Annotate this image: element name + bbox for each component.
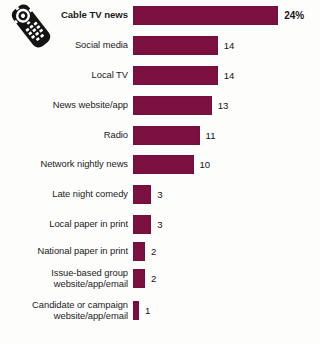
bar-value-label: 10 (194, 159, 211, 170)
bar-value-label: 14 (218, 40, 235, 51)
bar-category-label: Network nightly news (0, 158, 133, 169)
bar (133, 242, 145, 261)
bar-category-label: Social media (0, 39, 133, 50)
bar-category-label: Local TV (0, 69, 133, 80)
bar-value-label: 13 (212, 100, 229, 111)
bar-value-label: 1 (139, 305, 150, 316)
bar-row: Cable TV news24% (0, 5, 320, 25)
bar-and-value: 14 (133, 36, 320, 55)
bar-category-label: Late night comedy (0, 188, 133, 199)
bar-chart: Cable TV news24%Social media14Local TV14… (0, 0, 320, 344)
bar (133, 36, 218, 55)
bar-row: Local paper in print3 (0, 214, 320, 234)
bar-value-label: 2 (145, 246, 156, 257)
bar-category-label: Cable TV news (0, 9, 133, 20)
bar (133, 185, 151, 204)
bar-category-label: Radio (0, 129, 133, 140)
bar-value-label: 3 (151, 219, 162, 230)
bar-and-value: 2 (133, 242, 320, 261)
bar-and-value: 13 (133, 96, 320, 115)
bar-category-label: Candidate or campaign website/app/email (0, 299, 133, 322)
bar-row: Local TV14 (0, 65, 320, 85)
bar-row: National paper in print2 (0, 241, 320, 261)
bar (133, 269, 145, 288)
bar-row: Radio11 (0, 125, 320, 145)
bar-value-label: 11 (200, 130, 216, 141)
bar-and-value: 24% (133, 6, 320, 25)
bar-category-label: News website/app (0, 99, 133, 110)
bar-category-label: Local paper in print (0, 218, 133, 229)
bar-value-label: 14 (218, 70, 235, 81)
bar (133, 155, 194, 174)
bar (133, 215, 151, 234)
bar-and-value: 3 (133, 185, 320, 204)
bar-row: Late night comedy3 (0, 184, 320, 204)
bar (133, 126, 200, 145)
bar-and-value: 10 (133, 155, 320, 174)
bar-row: Candidate or campaign website/app/email1 (0, 300, 320, 320)
bar-value-label: 2 (145, 273, 156, 284)
bar-and-value: 14 (133, 66, 320, 85)
bar-and-value: 3 (133, 215, 320, 234)
bar-row: Network nightly news10 (0, 154, 320, 174)
bar (133, 96, 212, 115)
bar-category-label: National paper in print (0, 245, 133, 256)
bar (133, 6, 278, 25)
bar-row: News website/app13 (0, 95, 320, 115)
bar (133, 66, 218, 85)
bar-and-value: 11 (133, 126, 320, 145)
bar-and-value: 2 (133, 269, 320, 288)
bar-and-value: 1 (133, 301, 320, 320)
bar-row: Social media14 (0, 35, 320, 55)
bar-category-label: Issue-based group website/app/email (0, 267, 133, 290)
bar-value-label: 3 (151, 189, 162, 200)
bar-value-label: 24% (278, 10, 304, 21)
bar-row: Issue-based group website/app/email2 (0, 268, 320, 288)
